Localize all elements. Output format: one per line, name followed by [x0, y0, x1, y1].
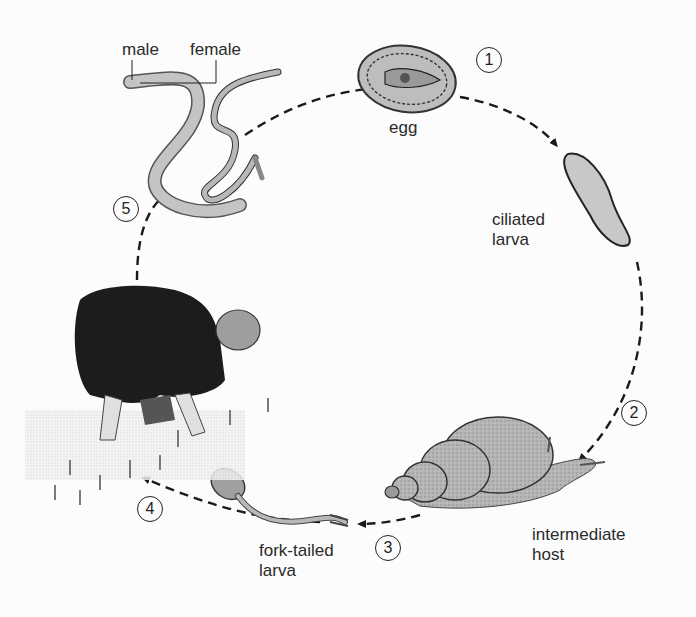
- step-number-5: 5: [113, 196, 139, 222]
- arrow-5-to-1: [245, 88, 378, 135]
- step-number-1: 1: [476, 47, 502, 73]
- step-number-2: 2: [621, 400, 647, 426]
- label-intermediate: intermediate: [532, 525, 626, 545]
- life-cycle-diagram: male female egg ciliated larva intermedi…: [0, 0, 696, 617]
- label-fork-tailed: fork-tailed: [259, 541, 334, 561]
- label-fork-tailed-larva: larva: [259, 561, 296, 581]
- label-ciliated: ciliated: [492, 210, 545, 230]
- egg-illustration: [354, 40, 460, 119]
- arrow-1-to-2: [460, 97, 556, 145]
- step-number-3: 3: [375, 535, 401, 561]
- label-ciliated-larva: larva: [492, 230, 529, 250]
- label-female: female: [190, 40, 241, 60]
- rice-farmer-illustration: [25, 286, 268, 505]
- ciliated-larva-illustration: [564, 154, 630, 246]
- arrow-2-to-3: [580, 262, 642, 460]
- adult-worms-illustration: [130, 60, 278, 211]
- arrow-3-to-4: [360, 515, 420, 524]
- arrow-farmer-to-worms: [137, 195, 165, 280]
- label-male: male: [122, 40, 159, 60]
- step-number-4: 4: [137, 496, 163, 522]
- label-egg: egg: [389, 118, 417, 138]
- label-host: host: [532, 545, 564, 565]
- snail-illustration: [385, 417, 605, 508]
